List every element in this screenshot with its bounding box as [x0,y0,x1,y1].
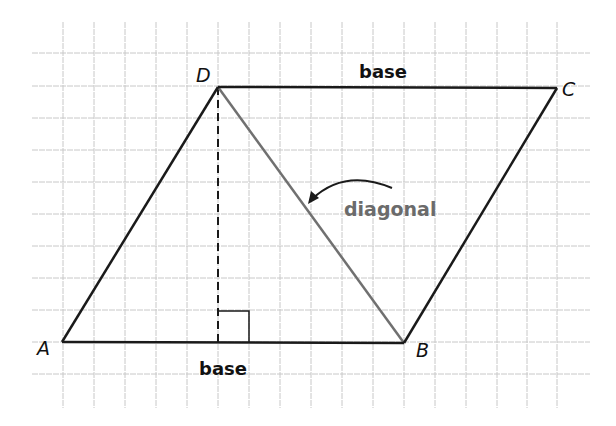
side-cd [218,87,557,88]
vertex-label-d: D [196,64,211,86]
base-label-bottom: base [199,358,247,379]
arrowhead-icon [308,191,319,204]
side-ab [62,342,404,343]
curved-arrow-icon [312,180,392,199]
vertex-label-a: A [35,337,50,359]
parallelogram-diagram: D C A B base base diagonal [0,0,616,426]
vertex-label-c: C [562,78,576,100]
base-label-top: base [359,61,407,82]
right-angle-marker [218,311,249,342]
vertex-label-b: B [416,339,429,361]
diagonal-label: diagonal [344,198,436,220]
